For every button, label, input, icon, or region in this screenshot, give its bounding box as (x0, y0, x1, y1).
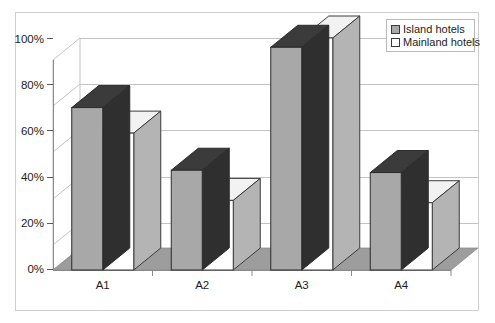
legend-label-island: Island hotels (403, 23, 465, 35)
x-tick-label-a3: A3 (295, 279, 309, 291)
bar-front-face (370, 173, 401, 270)
x-tick-label-a2: A2 (195, 279, 209, 291)
bar-side-face (202, 148, 229, 270)
bar-island-a1 (72, 86, 130, 270)
x-tick-label-a4: A4 (394, 279, 409, 291)
bar-island-a3 (271, 25, 329, 270)
y-tick-label: 20% (21, 217, 44, 229)
legend-swatch-mainland (392, 39, 400, 47)
y-tick-label: 60% (21, 125, 44, 137)
bar-side-face (302, 25, 329, 270)
y-tick-label: 0% (27, 263, 44, 275)
y-tick-label: 40% (21, 171, 44, 183)
x-tick-label-a1: A1 (96, 279, 110, 291)
chart-container: 0% 20% 40% 60% 80% 100% A1A2A3A4 Island … (0, 0, 495, 323)
legend: Island hotels Mainland hotels (387, 20, 481, 52)
y-tick-label: 80% (21, 79, 44, 91)
y-tick-label: 100% (15, 33, 44, 45)
legend-swatch-island (392, 26, 400, 34)
bar-front-face (271, 47, 302, 270)
bar-chart-3d: 0% 20% 40% 60% 80% 100% A1A2A3A4 Island … (0, 0, 495, 323)
bar-side-face (103, 86, 130, 270)
bar-front-face (171, 170, 202, 270)
bar-island-a2 (171, 148, 229, 270)
legend-label-mainland: Mainland hotels (403, 36, 481, 48)
bar-front-face (72, 108, 103, 270)
bar-side-face (134, 111, 161, 270)
bar-island-a4 (370, 151, 428, 270)
bar-side-face (333, 16, 360, 270)
